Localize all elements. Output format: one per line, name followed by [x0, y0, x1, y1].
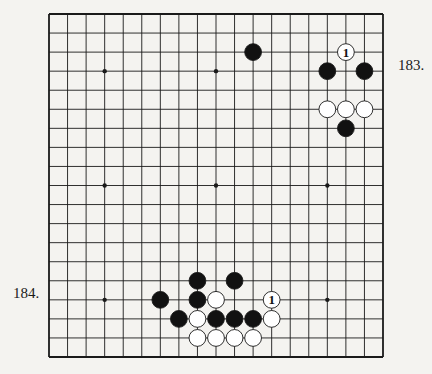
black-stone-disc: [319, 63, 336, 80]
white-stone: [208, 330, 225, 347]
star-point: [325, 183, 329, 187]
white-stone-disc: [189, 330, 206, 347]
stones: 11: [152, 44, 373, 347]
white-stone: [263, 310, 280, 327]
black-stone: [226, 272, 243, 289]
black-stone-disc: [189, 291, 206, 308]
white-stone-disc: [319, 101, 336, 118]
move-number-label: 1: [268, 292, 275, 307]
black-stone: [245, 44, 262, 61]
black-stone-disc: [152, 291, 169, 308]
black-stone: [337, 120, 354, 137]
star-point: [214, 183, 218, 187]
problem-label-183: 183.: [398, 57, 424, 74]
black-stone-disc: [189, 272, 206, 289]
black-stone-disc: [245, 310, 262, 327]
black-stone-disc: [356, 63, 373, 80]
problem-label-184: 184.: [13, 285, 39, 302]
black-stone: [226, 310, 243, 327]
black-stone: [189, 291, 206, 308]
white-stone: [319, 101, 336, 118]
white-stone: [189, 330, 206, 347]
move-number-label: 1: [343, 45, 350, 60]
star-point: [102, 183, 106, 187]
star-point: [325, 298, 329, 302]
black-stone-disc: [226, 272, 243, 289]
black-stone-disc: [170, 310, 187, 327]
white-stone: [226, 330, 243, 347]
white-stone: 1: [263, 291, 280, 308]
black-stone-disc: [226, 310, 243, 327]
white-stone: [189, 310, 206, 327]
white-stone-disc: [189, 310, 206, 327]
white-stone-disc: [263, 310, 280, 327]
white-stone-disc: [337, 101, 354, 118]
black-stone: [189, 272, 206, 289]
white-stone-disc: [245, 330, 262, 347]
black-stone-disc: [208, 310, 225, 327]
white-stone-disc: [208, 330, 225, 347]
white-stone: 1: [337, 44, 354, 61]
white-stone: [245, 330, 262, 347]
black-stone: [319, 63, 336, 80]
star-point: [214, 69, 218, 73]
white-stone: [356, 101, 373, 118]
black-stone-disc: [245, 44, 262, 61]
black-stone: [170, 310, 187, 327]
black-stone: [245, 310, 262, 327]
star-point: [102, 69, 106, 73]
black-stone-disc: [337, 120, 354, 137]
star-point: [102, 298, 106, 302]
white-stone: [208, 291, 225, 308]
white-stone-disc: [356, 101, 373, 118]
go-board: 11: [0, 0, 432, 374]
white-stone-disc: [226, 330, 243, 347]
white-stone: [337, 101, 354, 118]
black-stone: [152, 291, 169, 308]
white-stone-disc: [208, 291, 225, 308]
black-stone: [356, 63, 373, 80]
black-stone: [208, 310, 225, 327]
